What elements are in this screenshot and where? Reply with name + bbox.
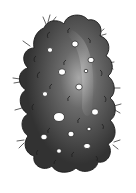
berry-body <box>19 15 115 172</box>
white-spot <box>68 131 74 137</box>
white-spot <box>84 69 88 72</box>
white-spot <box>41 134 47 140</box>
white-spot <box>87 127 91 131</box>
berry-illustration <box>0 0 136 193</box>
white-spot <box>92 109 99 115</box>
white-spot <box>72 41 78 47</box>
white-spot <box>47 48 52 53</box>
white-spot <box>76 84 82 90</box>
white-spot <box>54 113 65 122</box>
white-spot <box>84 143 91 148</box>
white-spot <box>88 57 94 62</box>
white-spot <box>57 149 62 153</box>
white-spot <box>58 69 65 75</box>
white-spot <box>42 92 47 97</box>
